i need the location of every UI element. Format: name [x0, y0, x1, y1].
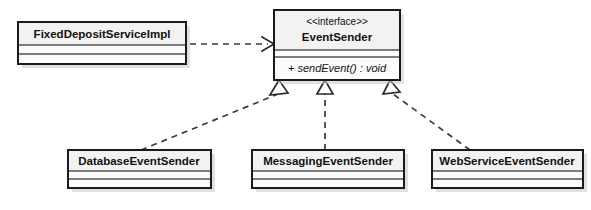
class-box-web-service-event-sender[interactable]: WebServiceEventSender — [432, 150, 587, 192]
class-name-label: FixedDepositServiceImpl — [34, 28, 171, 40]
class-name-label: EventSender — [302, 31, 373, 43]
relationship-dependency-impl-to-interface[interactable] — [190, 37, 274, 51]
class-box-messaging-event-sender[interactable]: MessagingEventSender — [252, 150, 408, 192]
relationship-realization-webservice[interactable] — [383, 80, 470, 150]
class-name-label: WebServiceEventSender — [439, 155, 575, 167]
realization-line-webservice — [393, 94, 470, 150]
relationship-realization-messaging[interactable] — [317, 80, 333, 150]
class-box-fixed-deposit-service-impl[interactable]: FixedDepositServiceImpl — [18, 22, 190, 68]
relationship-realization-database[interactable] — [141, 80, 288, 150]
class-name-label: DatabaseEventSender — [78, 155, 200, 167]
class-operation-label: + sendEvent() : void — [288, 62, 387, 74]
class-stereotype-label: <<interface>> — [306, 16, 368, 27]
class-name-label: MessagingEventSender — [263, 155, 393, 167]
uml-class-diagram: EventSender --> — [0, 0, 591, 210]
class-box-database-event-sender[interactable]: DatabaseEventSender — [68, 150, 215, 192]
class-box-event-sender[interactable]: <<interface>> EventSender + sendEvent() … — [274, 10, 404, 84]
realization-line-database — [141, 94, 278, 150]
